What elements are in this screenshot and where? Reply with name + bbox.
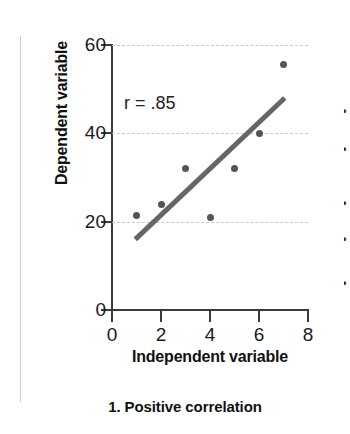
correlation-annotation: r = .85	[124, 93, 176, 114]
y-tick-label: 0	[95, 299, 106, 321]
x-tick-mark	[111, 310, 113, 322]
x-tick-label: 4	[205, 324, 216, 346]
y-tick-label: 60	[85, 34, 106, 56]
x-tick-mark	[209, 310, 211, 322]
x-tick-label: 0	[107, 324, 118, 346]
x-tick-label: 6	[254, 324, 265, 346]
x-tick-label: 8	[303, 324, 314, 346]
x-tick-mark	[160, 310, 162, 322]
data-point	[133, 212, 140, 219]
data-point	[256, 130, 263, 137]
x-tick-mark	[307, 310, 309, 322]
scatter-plot-figure: Dependent variable 0204060 02468 r = .85…	[0, 0, 350, 434]
x-axis-label: Independent variable	[112, 348, 308, 366]
y-axis-label: Dependent variable	[53, 13, 71, 213]
data-point	[158, 201, 165, 208]
y-tick-label: 20	[85, 211, 106, 233]
figure-caption: 1. Positive correlation	[40, 398, 330, 415]
x-tick-label: 2	[156, 324, 167, 346]
trend-line	[112, 45, 308, 310]
data-point	[207, 214, 214, 221]
x-tick-mark	[258, 310, 260, 322]
y-tick-label: 40	[85, 122, 106, 144]
plot-area: 0204060 02468 r = .85	[112, 45, 308, 310]
